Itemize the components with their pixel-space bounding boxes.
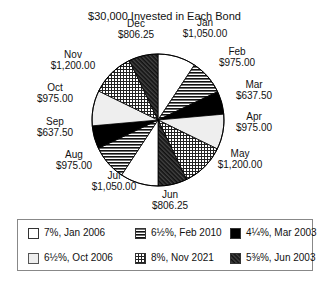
slice-value: $806.25 [135, 200, 205, 211]
slice-label-apr: Apr$975.00 [219, 111, 289, 133]
legend-item: 5⅜%, Jun 2003 [230, 252, 316, 264]
slice-month: Jul [79, 170, 149, 181]
slice-month: Jan [170, 17, 240, 28]
swatch-horizontal-lines-icon [135, 228, 146, 239]
slice-month: Oct [20, 82, 90, 93]
slice-label-may: May$1,200.00 [205, 148, 275, 170]
slice-month: Mar [219, 79, 289, 90]
slice-value: $1,050.00 [79, 181, 149, 192]
slice-value: $975.00 [20, 93, 90, 104]
slice-label-sep: Sep$637.50 [20, 116, 90, 138]
slice-label-oct: Oct$975.00 [20, 82, 90, 104]
slice-month: Apr [219, 111, 289, 122]
slice-label-dec: Dec$806.25 [101, 18, 171, 40]
slice-value: $806.25 [101, 29, 171, 40]
slice-month: Sep [20, 116, 90, 127]
slice-value: $1,050.00 [170, 28, 240, 39]
legend-item: 8%, Nov 2021 [135, 252, 214, 264]
legend-label: 5⅜%, Jun 2003 [246, 252, 316, 264]
swatch-light-gray-icon [28, 253, 39, 264]
legend-label: 6½%, Oct 2006 [44, 252, 113, 264]
slice-label-jul: Jul$1,050.00 [79, 170, 149, 192]
slice-value: $637.50 [20, 127, 90, 138]
legend-label: 8%, Nov 2021 [151, 252, 214, 264]
slice-label-feb: Feb$975.00 [202, 46, 272, 68]
slice-value: $637.50 [219, 90, 289, 101]
legend-item: 4¼%, Mar 2003 [230, 227, 317, 239]
legend: 7%, Jan 2006 6½%, Feb 2010 4¼%, Mar 2003… [17, 219, 313, 271]
swatch-crosshatch-icon [135, 253, 146, 264]
legend-item: 7%, Jan 2006 [28, 227, 105, 239]
slice-month: Nov [38, 49, 108, 60]
slice-label-nov: Nov$1,200.00 [38, 49, 108, 71]
legend-label: 6½%, Feb 2010 [151, 227, 222, 239]
slice-month: Feb [202, 46, 272, 57]
slice-value: $1,200.00 [205, 159, 275, 170]
slice-value: $1,200.00 [38, 60, 108, 71]
slice-label-aug: Aug$975.00 [39, 149, 109, 171]
slice-month: Aug [39, 149, 109, 160]
slice-value: $975.00 [219, 122, 289, 133]
slice-label-jan: Jan$1,050.00 [170, 17, 240, 39]
slice-month: May [205, 148, 275, 159]
swatch-black-icon [230, 228, 241, 239]
legend-item: 6½%, Oct 2006 [28, 252, 113, 264]
swatch-dark-diagonal-icon [230, 253, 241, 264]
slice-month: Dec [101, 18, 171, 29]
slice-value: $975.00 [39, 160, 109, 171]
legend-label: 7%, Jan 2006 [44, 227, 105, 239]
slice-label-mar: Mar$637.50 [219, 79, 289, 101]
slice-label-jun: Jun$806.25 [135, 189, 205, 211]
legend-label: 4¼%, Mar 2003 [246, 227, 317, 239]
legend-item: 6½%, Feb 2010 [135, 227, 222, 239]
swatch-white-icon [28, 228, 39, 239]
slice-value: $975.00 [202, 57, 272, 68]
